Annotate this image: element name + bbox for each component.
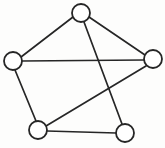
graph-edge-bottom-left-right: [46, 66, 146, 126]
graph-node-top[interactable]: [72, 4, 90, 22]
graph-diagram: [0, 0, 165, 148]
graph-edge-top-left: [21, 17, 73, 57]
graph-node-right[interactable]: [144, 50, 162, 68]
graph-edge-left-bottom-left: [15, 70, 36, 121]
graph-edge-bottom-left-bottom-right: [47, 131, 116, 133]
graph-node-left[interactable]: [4, 52, 22, 70]
graph-edge-top-right: [89, 17, 145, 55]
node-group: [4, 4, 162, 142]
graph-node-bottom-left[interactable]: [29, 121, 47, 139]
graph-node-bottom-right[interactable]: [116, 124, 134, 142]
edge-group: [15, 17, 146, 133]
graph-edge-left-right: [22, 60, 144, 61]
graph-edge-top-bottom-right: [84, 22, 122, 124]
graph-canvas: [0, 0, 165, 148]
